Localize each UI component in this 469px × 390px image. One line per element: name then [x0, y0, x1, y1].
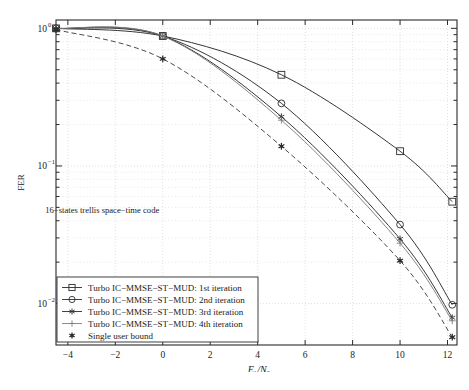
annotation-layer: 16−states trellis space−time code	[45, 205, 159, 215]
legend-label: Turbo IC−MMSE−ST−MUD: 3rd iteration	[88, 307, 244, 317]
xtick-label: 4	[255, 350, 260, 360]
xtick-label: −4	[63, 350, 73, 360]
svg-text:10: 10	[38, 299, 48, 309]
legend-item-2[interactable]: Turbo IC−MMSE−ST−MUD: 2nd iteration	[62, 295, 245, 305]
fer-vs-ebn0-chart: −4−202468101210010−110−2FEREb/N0 16−stat…	[0, 0, 469, 372]
figure-container: −4−202468101210010−110−2FEREb/N0 16−stat…	[0, 0, 469, 390]
ytick-label: 10−2	[38, 296, 55, 309]
legend-label: Single user bound	[88, 331, 153, 341]
legend-box[interactable]: Turbo IC−MMSE−ST−MUD: 1st iterationTurbo…	[57, 277, 258, 342]
legend-item-1[interactable]: Turbo IC−MMSE−ST−MUD: 1st iteration	[62, 283, 242, 293]
xtick-label: 8	[350, 350, 355, 360]
xtick-label: 6	[303, 350, 308, 360]
legend-label: Turbo IC−MMSE−ST−MUD: 4th iteration	[88, 319, 243, 329]
xtick-label: −2	[110, 350, 120, 360]
xtick-label: 0	[160, 350, 165, 360]
svg-text:10: 10	[38, 24, 48, 34]
figure-caption	[0, 376, 469, 390]
svg-text:−2: −2	[48, 296, 55, 303]
svg-text:0: 0	[48, 21, 51, 28]
svg-text:10: 10	[38, 161, 48, 171]
y-axis-title: FER	[16, 174, 26, 191]
svg-text:Eb/N0: Eb/N0	[247, 364, 270, 372]
legend-item-4[interactable]: Turbo IC−MMSE−ST−MUD: 4th iteration	[62, 319, 243, 329]
series-2	[53, 25, 456, 308]
xtick-label: 10	[395, 350, 405, 360]
x-axis-title: Eb/N0	[247, 364, 270, 372]
xtick-label: 2	[208, 350, 213, 360]
legend-label: Turbo IC−MMSE−ST−MUD: 2nd iteration	[88, 295, 245, 305]
svg-text:−1: −1	[48, 158, 55, 165]
ytick-label: 100	[38, 21, 52, 34]
xtick-label: 12	[443, 350, 453, 360]
legend-label: Turbo IC−MMSE−ST−MUD: 1st iteration	[88, 283, 242, 293]
series-1	[53, 25, 456, 205]
plot-annotation: 16−states trellis space−time code	[45, 205, 159, 215]
ytick-label: 10−1	[38, 158, 55, 171]
legend-item-3[interactable]: Turbo IC−MMSE−ST−MUD: 3rd iteration	[62, 307, 244, 317]
